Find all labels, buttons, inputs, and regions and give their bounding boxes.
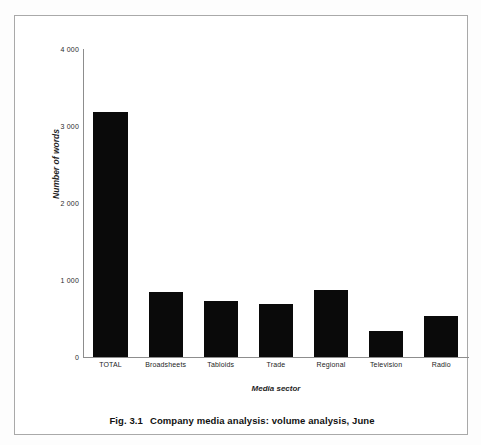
y-axis-tick-labels: 0 1 000 2 000 3 000 4 000	[21, 49, 79, 357]
x-axis-title: Media sector	[83, 384, 469, 393]
figure-number: Fig. 3.1	[109, 415, 143, 426]
y-tick-label-3000: 3 000	[25, 123, 79, 130]
bar-trade[interactable]	[259, 304, 293, 357]
x-tick-label-broadsheets: Broadsheets	[138, 361, 193, 377]
x-axis-tick-labels: TOTAL Broadsheets Tabloids Trade Regiona…	[83, 361, 469, 377]
bar-tabloids[interactable]	[204, 301, 238, 357]
bar-total[interactable]	[93, 112, 127, 357]
bar-slot	[359, 49, 414, 357]
bar-slot	[193, 49, 248, 357]
y-tick-label-0: 0	[25, 354, 79, 361]
y-tick-label-1000: 1 000	[25, 277, 79, 284]
bar-regional[interactable]	[314, 290, 348, 357]
x-tick-label-television: Television	[359, 361, 414, 377]
x-tick-label-regional: Regional	[303, 361, 358, 377]
x-tick-label-tabloids: Tabloids	[193, 361, 248, 377]
x-axis-spine	[83, 357, 469, 358]
bar-radio[interactable]	[424, 316, 458, 357]
figure-page: Number of words 0 1 000 2 000 3 000 4 00…	[0, 0, 481, 445]
bar-slot	[138, 49, 193, 357]
bar-slot	[414, 49, 469, 357]
y-tick-label-4000: 4 000	[25, 46, 79, 53]
bar-series	[83, 49, 469, 357]
bar-slot	[304, 49, 359, 357]
figure-caption: Fig. 3.1Company media analysis: volume a…	[15, 415, 469, 426]
x-tick-label-trade: Trade	[248, 361, 303, 377]
x-tick-label-radio: Radio	[414, 361, 469, 377]
figure-frame: Number of words 0 1 000 2 000 3 000 4 00…	[14, 15, 468, 435]
y-tick-label-2000: 2 000	[25, 200, 79, 207]
bar-television[interactable]	[369, 331, 403, 357]
bar-slot	[83, 49, 138, 357]
figure-caption-text: Company media analysis: volume analysis,…	[150, 415, 375, 426]
bar-slot	[248, 49, 303, 357]
bar-broadsheets[interactable]	[149, 292, 183, 357]
x-tick-label-total: TOTAL	[83, 361, 138, 377]
